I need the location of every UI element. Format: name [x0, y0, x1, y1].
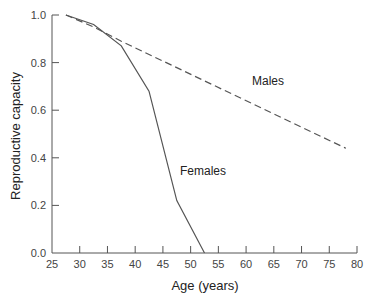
x-tick-label: 65 [268, 258, 280, 270]
y-tick-label: 0.2 [31, 199, 46, 211]
x-tick-label: 45 [157, 258, 169, 270]
axes: 2530354045505560657075800.00.20.40.60.81… [31, 9, 363, 270]
x-tick-label: 60 [240, 258, 252, 270]
line-chart: 2530354045505560657075800.00.20.40.60.81… [0, 0, 371, 300]
x-tick-label: 35 [101, 258, 113, 270]
females-annotation: Females [180, 164, 226, 178]
y-tick-label: 0.8 [31, 57, 46, 69]
y-tick-label: 0.0 [31, 247, 46, 259]
females-line [66, 15, 205, 253]
y-axis-title: Reproductive capacity [8, 72, 23, 200]
x-tick-label: 30 [74, 258, 86, 270]
x-tick-label: 55 [212, 258, 224, 270]
y-tick-label: 0.6 [31, 104, 46, 116]
x-tick-label: 25 [46, 258, 58, 270]
x-tick-label: 80 [351, 258, 363, 270]
x-tick-label: 40 [129, 258, 141, 270]
y-tick-label: 0.4 [31, 152, 46, 164]
x-tick-label: 75 [323, 258, 335, 270]
x-tick-label: 70 [295, 258, 307, 270]
x-axis-title: Age (years) [171, 278, 238, 293]
males-annotation: Males [252, 74, 284, 88]
series-layer [66, 15, 346, 253]
y-tick-label: 1.0 [31, 9, 46, 21]
x-tick-label: 50 [185, 258, 197, 270]
